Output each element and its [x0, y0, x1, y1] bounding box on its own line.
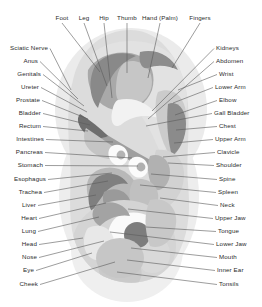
label-stomach: Stomach — [18, 162, 43, 168]
label-thumb: Thumb — [117, 15, 137, 21]
label-sciatic-nerve: Sciatic Nerve — [10, 45, 48, 51]
label-rectum: Rectum — [19, 123, 41, 129]
zone-pancreas-core — [117, 151, 126, 160]
label-spleen: Spleen — [218, 189, 238, 195]
label-neck: Neck — [220, 202, 235, 208]
label-chest: Chest — [219, 123, 236, 129]
label-cheek: Cheek — [19, 281, 38, 287]
label-trachea: Trachea — [19, 189, 42, 195]
label-inner-ear: Inner Ear — [217, 267, 244, 273]
label-upper-arm: Upper Arm — [215, 136, 246, 142]
label-hip: Hip — [99, 15, 109, 21]
label-genitals: Genitals — [17, 71, 41, 77]
label-mouth: Mouth — [219, 254, 237, 260]
label-kidneys: Kidneys — [216, 45, 239, 51]
label-lower-jaw: Lower Jaw — [216, 241, 247, 247]
label-spine: Spine — [219, 176, 235, 182]
label-fingers: Fingers — [189, 15, 211, 21]
zone-lobe-centre — [96, 238, 144, 278]
label-bladder: Bladder — [19, 110, 41, 116]
label-heart: Heart — [21, 215, 37, 221]
label-lung: Lung — [22, 228, 36, 234]
label-shoulder: Shoulder — [216, 162, 242, 168]
label-wrist: Wrist — [219, 71, 234, 77]
label-leg: Leg — [79, 15, 90, 21]
label-tongue: Tongue — [218, 228, 239, 234]
label-pancreas: Pancreas — [16, 149, 43, 155]
label-nose: Nose — [22, 254, 37, 260]
label-lower-arm: Lower Arm — [215, 84, 246, 90]
label-elbow: Elbow — [219, 97, 236, 103]
label-prostate: Prostate — [16, 97, 40, 103]
label-head: Head — [22, 241, 37, 247]
label-hand-palm: Hand (Palm) — [142, 15, 178, 21]
label-intestines: Intestines — [16, 136, 44, 142]
label-foot: Foot — [56, 15, 69, 21]
label-gall-bladder: Gall Bladder — [214, 110, 250, 116]
label-clavicle: Clavicle — [217, 149, 240, 155]
label-eye: Eye — [23, 267, 34, 273]
label-ureter: Ureter — [21, 84, 39, 90]
label-esophagus: Esophagus — [14, 176, 46, 182]
zone-stomach-core — [137, 163, 146, 172]
ear-reflexology-diagram: FootLegHipThumbHand (Palm)Fingers Sciati… — [0, 0, 262, 307]
label-upper-jaw: Upper Jaw — [215, 215, 246, 221]
label-liver: Liver — [22, 202, 36, 208]
label-anus: Anus — [23, 58, 38, 64]
label-tonsils: Tonsils — [219, 281, 239, 287]
label-abdomen: Abdomen — [216, 58, 243, 64]
